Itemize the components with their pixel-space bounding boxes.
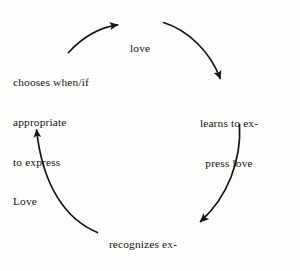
node-chooses-when-if-appropriate: chooses when/if appropriate to express L…: [13, 50, 117, 235]
node-learns-line-2: press love: [196, 157, 262, 170]
node-chooses-line-2: appropriate: [13, 116, 117, 129]
arrow-chooses-to-love: [69, 25, 118, 53]
node-learns-line-1: learns to ex-: [196, 117, 262, 130]
node-chooses-line-3: to express: [13, 156, 117, 169]
node-chooses-line-1: chooses when/if: [13, 76, 117, 89]
node-love-line-1: love: [130, 42, 150, 55]
node-chooses-line-4: Love: [13, 195, 117, 208]
cycle-diagram: love learns to ex- press love recognizes…: [0, 0, 300, 271]
node-love: love: [130, 16, 150, 82]
arrow-love-to-learns: [164, 23, 221, 79]
node-recognizes-line-1: recognizes ex-: [100, 238, 186, 251]
node-learns-to-express-love: learns to ex- press love: [196, 91, 262, 197]
